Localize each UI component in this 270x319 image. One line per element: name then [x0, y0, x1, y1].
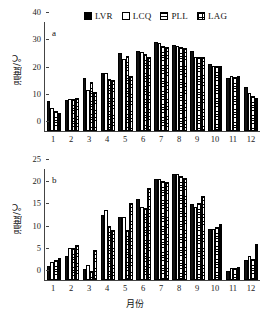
- bar-lag: [111, 80, 115, 131]
- legend-item-lvr: LVR: [84, 12, 113, 21]
- bar-lag: [93, 92, 97, 131]
- bar-lag: [75, 245, 79, 280]
- figure-temperature-by-month: LVR LCQ PLL LAG 温度/℃ a 010203040 1234567…: [0, 0, 270, 319]
- horizontal-striped-square-icon: [160, 12, 168, 20]
- bar-group: [242, 22, 260, 131]
- bar-lag: [165, 47, 169, 131]
- bar-group: [242, 169, 260, 280]
- bar-lag: [255, 244, 259, 280]
- bar-lag: [183, 178, 187, 280]
- x-axis-tick: 2: [62, 283, 80, 293]
- bar-lag: [58, 113, 62, 131]
- legend-label-lag: LAG: [208, 12, 227, 21]
- cross-hatched-square-icon: [197, 12, 205, 20]
- bar-group: [99, 22, 117, 131]
- bar-group: [153, 169, 171, 280]
- bar-lag: [111, 230, 115, 280]
- legend-item-lcq: LCQ: [122, 12, 152, 21]
- bar-lag: [165, 182, 169, 280]
- bar-lag: [183, 48, 187, 131]
- bar-lag: [129, 76, 133, 131]
- x-axis-tick: 2: [62, 134, 80, 144]
- x-axis-tick: 4: [98, 134, 116, 144]
- bar-lag: [219, 224, 223, 280]
- bar-group: [99, 169, 117, 280]
- x-axis-tick: 7: [152, 283, 170, 293]
- x-axis-tick: 12: [242, 283, 260, 293]
- x-axis-ticks-b: 123456789101112: [44, 283, 260, 293]
- bar-lag: [237, 267, 241, 280]
- x-axis-tick: 11: [224, 283, 242, 293]
- y-axis-tick: 20: [33, 62, 46, 72]
- bar-group: [63, 22, 81, 131]
- bar-group: [63, 169, 81, 280]
- x-axis-tick: 8: [170, 283, 188, 293]
- bar-group: [135, 22, 153, 131]
- y-axis-tick: 40: [33, 7, 46, 17]
- x-axis-tick: 7: [152, 134, 170, 144]
- bar-lag: [201, 57, 205, 131]
- y-axis-label-b: 温度/℃: [10, 201, 23, 234]
- x-axis-tick: 6: [134, 134, 152, 144]
- bar-group: [188, 22, 206, 131]
- bar-lag: [219, 66, 223, 131]
- y-axis-tick: 5: [37, 243, 45, 253]
- bar-lag: [255, 98, 259, 131]
- bar-group: [188, 169, 206, 280]
- y-axis-tick: 20: [33, 176, 46, 186]
- y-axis-tick: 25: [33, 154, 46, 164]
- bar-group: [135, 169, 153, 280]
- y-axis-label-a: 温度/℃: [10, 52, 23, 85]
- x-axis-tick: 1: [44, 134, 62, 144]
- chart-legend: LVR LCQ PLL LAG: [84, 9, 268, 23]
- y-axis-tick: 10: [33, 221, 46, 231]
- legend-item-pll: PLL: [160, 12, 188, 21]
- bar-group: [117, 169, 135, 280]
- x-axis-tick: 5: [116, 283, 134, 293]
- bar-group: [117, 22, 135, 131]
- x-axis-tick: 5: [116, 134, 134, 144]
- bar-group: [224, 169, 242, 280]
- legend-label-pll: PLL: [171, 12, 188, 21]
- bar-groups-b: [45, 169, 260, 280]
- chart-panel-b: 温度/℃ b 0510152025 123456789101112 月份: [0, 155, 270, 319]
- bar-group: [153, 22, 171, 131]
- x-axis-ticks-a: 123456789101112: [44, 134, 260, 144]
- bar-lag: [147, 188, 151, 280]
- x-axis-tick: 8: [170, 134, 188, 144]
- x-axis-tick: 3: [80, 283, 98, 293]
- legend-label-lcq: LCQ: [133, 12, 152, 21]
- bar-group: [170, 22, 188, 131]
- y-axis-tick: 10: [33, 89, 46, 99]
- x-axis-tick: 4: [98, 283, 116, 293]
- bar-groups-a: [45, 22, 260, 131]
- bar-group: [206, 22, 224, 131]
- bar-group: [170, 169, 188, 280]
- bar-group: [81, 169, 99, 280]
- x-axis-tick: 12: [242, 134, 260, 144]
- bar-group: [45, 169, 63, 280]
- plot-area-a: 010203040: [44, 22, 260, 132]
- x-axis-tick: 11: [224, 134, 242, 144]
- y-axis-tick: 0: [37, 116, 45, 126]
- bar-lag: [93, 250, 97, 280]
- x-axis-tick: 1: [44, 283, 62, 293]
- x-axis-tick: 9: [188, 134, 206, 144]
- y-axis-tick: 30: [33, 34, 46, 44]
- plot-area-b: 0510152025: [44, 169, 260, 281]
- chart-panel-a: LVR LCQ PLL LAG 温度/℃ a 010203040 1234567…: [0, 0, 270, 158]
- x-axis-tick: 6: [134, 283, 152, 293]
- bar-lag: [129, 203, 133, 280]
- y-axis-tick: 0: [37, 265, 45, 275]
- legend-label-lvr: LVR: [95, 12, 113, 21]
- bar-group: [81, 22, 99, 131]
- bar-lag: [237, 76, 241, 131]
- x-axis-tick: 9: [188, 283, 206, 293]
- bar-lag: [75, 98, 79, 131]
- x-axis-tick: 10: [206, 283, 224, 293]
- legend-item-lag: LAG: [197, 12, 227, 21]
- bar-lag: [58, 258, 62, 280]
- bar-lag: [201, 196, 205, 280]
- x-axis-label-b: 月份: [0, 297, 270, 310]
- x-axis-tick: 3: [80, 134, 98, 144]
